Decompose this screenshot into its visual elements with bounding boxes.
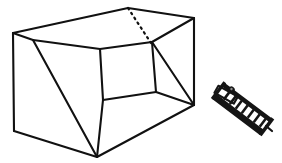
box-edge-left-vertical: [13, 33, 14, 131]
background-rect: [0, 0, 282, 163]
drawing-canvas: Open box line drawing with small dark ra…: [0, 0, 282, 163]
line-drawing-svg: [0, 0, 282, 163]
